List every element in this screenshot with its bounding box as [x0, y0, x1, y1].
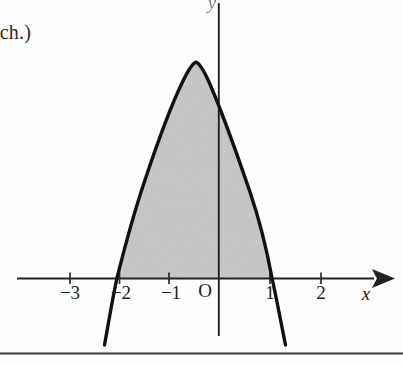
- shaded-region: [117, 62, 272, 278]
- x-tick-label-plus-2: 2: [316, 282, 326, 303]
- x-axis-label: x: [361, 283, 371, 304]
- y-axis-label: y: [206, 0, 217, 13]
- figure-page: tch.): [0, 0, 403, 365]
- x-tick-label-minus-2: −2: [111, 282, 131, 303]
- x-tick-label-plus-1: 1: [265, 282, 275, 303]
- x-tick-label-minus-1: −1: [161, 282, 181, 303]
- x-tick-label-minus-3: −3: [60, 282, 80, 303]
- origin-label: O: [198, 280, 212, 301]
- parabola-figure: −3 −2 −1 1 2 O x y: [0, 0, 403, 365]
